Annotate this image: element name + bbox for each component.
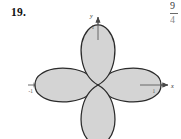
y-axis-arrowhead-overlay [96,17,101,23]
rose-petals-group [35,25,161,139]
rose-curve-figure: x y 1 -1 1 [0,0,181,139]
rose-curve-svg: x y 1 -1 1 [0,0,181,139]
y-axis-label: y [89,12,93,19]
x-axis-label: x [170,82,174,89]
x-negative-tick-label: -1 [29,88,34,94]
exercise-figure-page: 19. 9 4 [0,0,181,139]
x-positive-tick-label: 1 [153,88,156,94]
y-positive-tick-label: 1 [92,24,95,30]
x-axis-arrowhead-overlay [163,83,169,88]
